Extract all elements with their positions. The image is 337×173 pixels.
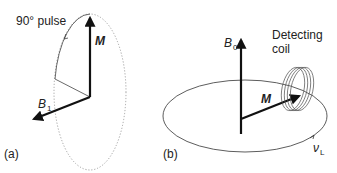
panel-a: 90° pulse M B 1 (a) xyxy=(4,14,126,170)
projection-line xyxy=(55,79,90,97)
b1-sub: 1 xyxy=(47,104,52,113)
b1-label: B xyxy=(38,97,46,111)
nmr-diagram: 90° pulse M B 1 (a) B 0 Detecting coil M… xyxy=(0,0,337,173)
pulse-label: 90° pulse xyxy=(16,14,66,28)
panel-b-label: (b) xyxy=(163,147,178,161)
b0-sub: 0 xyxy=(233,43,238,52)
larmor-arrow-icon xyxy=(310,135,314,139)
m-label-a: M xyxy=(95,34,106,48)
b0-label: B xyxy=(224,36,232,50)
pulse-arrow-icon xyxy=(64,34,68,39)
m-label-b: M xyxy=(261,92,272,106)
panel-b: B 0 Detecting coil M ν L (b) xyxy=(163,28,327,161)
precession-ellipse xyxy=(163,80,327,152)
coil-label-1: Detecting xyxy=(272,28,323,42)
larmor-label: ν xyxy=(313,141,319,155)
panel-a-label: (a) xyxy=(4,147,19,161)
coil-icon xyxy=(278,65,318,113)
coil-label-2: coil xyxy=(272,42,290,56)
larmor-sub: L xyxy=(320,148,325,157)
